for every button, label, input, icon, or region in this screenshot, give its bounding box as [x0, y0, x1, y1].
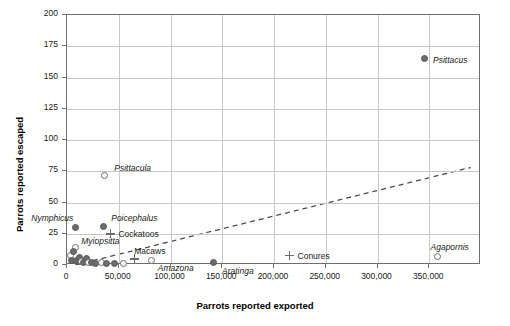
y-axis-tick-label: 100 — [24, 133, 58, 143]
data-point-label: Agapornis — [431, 242, 469, 252]
y-axis-tick-label: 25 — [24, 227, 58, 237]
data-point-label: Cockatoos — [118, 229, 158, 239]
y-axis-tick — [62, 170, 66, 171]
x-axis-tick — [377, 264, 378, 268]
y-axis-tick-label: 125 — [24, 102, 58, 112]
data-point — [421, 55, 428, 62]
data-point — [434, 253, 441, 260]
y-axis-tick — [62, 264, 66, 265]
data-point-label: Poicephalus — [111, 213, 157, 223]
y-axis-tick-label: 75 — [24, 164, 58, 174]
gridline-vertical — [222, 15, 223, 263]
data-point — [210, 259, 217, 266]
data-point-label: Psittacula — [114, 163, 151, 173]
data-point-label: Psittacus — [433, 55, 468, 65]
y-axis-tick-label: 150 — [24, 71, 58, 81]
y-axis-tick-label: 175 — [24, 39, 58, 49]
plot-area: PsittacusPsittaculaNymphicusPoicephalusC… — [66, 14, 480, 264]
y-axis-tick-label: 0 — [24, 258, 58, 268]
y-axis-tick — [62, 139, 66, 140]
y-axis-tick — [62, 14, 66, 15]
data-point — [285, 251, 294, 260]
data-point — [148, 257, 155, 264]
data-point-label: Macaws — [134, 246, 165, 256]
gridline-vertical — [326, 15, 327, 263]
y-axis-tick — [62, 45, 66, 46]
gridline-vertical — [378, 15, 379, 263]
x-axis-title: Parrots reported exported — [0, 300, 510, 311]
gridline-vertical — [171, 15, 172, 263]
data-point-label: Conures — [298, 251, 330, 261]
y-axis-tick — [62, 108, 66, 109]
data-point-label: Nymphicus — [31, 213, 73, 223]
gridline-horizontal — [67, 46, 479, 47]
x-axis-tick — [66, 264, 67, 268]
x-axis-tick — [428, 264, 429, 268]
gridline-vertical — [119, 15, 120, 263]
data-point — [103, 260, 110, 267]
y-axis-tick — [62, 77, 66, 78]
data-point-label: Myiopsitta — [81, 236, 119, 246]
data-point — [120, 260, 127, 267]
gridline-horizontal — [67, 78, 479, 79]
y-axis-tick — [62, 202, 66, 203]
x-axis-tick-label: 350,000 — [398, 271, 458, 281]
data-point — [70, 248, 77, 255]
data-point — [72, 224, 79, 231]
chart-root: PsittacusPsittaculaNymphicusPoicephalusC… — [0, 0, 510, 326]
gridline-horizontal — [67, 109, 479, 110]
x-axis-tick — [325, 264, 326, 268]
y-axis-tick — [62, 233, 66, 234]
x-axis-tick — [170, 264, 171, 268]
y-axis-tick-label: 50 — [24, 196, 58, 206]
gridline-horizontal — [67, 203, 479, 204]
y-axis-tick-label: 200 — [24, 8, 58, 18]
x-axis-tick — [118, 264, 119, 268]
x-axis-tick — [221, 264, 222, 268]
x-axis-tick — [273, 264, 274, 268]
gridline-vertical — [274, 15, 275, 263]
data-point — [101, 172, 108, 179]
gridline-vertical — [429, 15, 430, 263]
gridline-horizontal — [67, 140, 479, 141]
